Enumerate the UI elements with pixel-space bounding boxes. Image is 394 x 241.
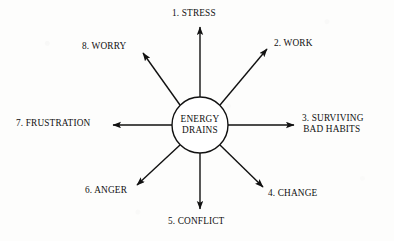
spoke-line-work xyxy=(220,49,267,105)
spoke-label-anger: 6. ANGER xyxy=(85,185,127,196)
spoke-label-frustration: 7. FRUSTRATION xyxy=(16,118,90,129)
spoke-label-surviving-bad-habits: 3. SURVIVING BAD HABITS xyxy=(302,113,364,135)
spoke-label-surviving-line2: BAD HABITS xyxy=(302,124,364,135)
spoke-line-change xyxy=(220,145,263,187)
spoke-label-surviving-line1: 3. SURVIVING xyxy=(302,113,364,124)
diagram-canvas: ENERGY DRAINS 1. STRESS 2. WORK 3. SURVI… xyxy=(0,0,394,241)
spoke-label-work: 2. WORK xyxy=(274,38,313,49)
hub-label-line2: DRAINS xyxy=(182,125,218,135)
spoke-line-anger xyxy=(137,145,180,185)
hub-label-line1: ENERGY xyxy=(181,114,220,124)
spoke-label-conflict: 5. CONFLICT xyxy=(168,216,224,227)
spoke-label-stress: 1. STRESS xyxy=(172,8,216,19)
spoke-line-worry xyxy=(143,53,180,105)
spoke-label-worry: 8. WORRY xyxy=(82,41,126,52)
spoke-label-change: 4. CHANGE xyxy=(268,188,317,199)
